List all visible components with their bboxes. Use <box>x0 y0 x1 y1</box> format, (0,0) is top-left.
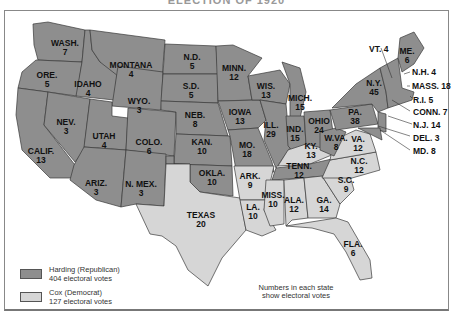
label-iowa: IOWA13 <box>229 108 252 126</box>
map-note: Numbers in each state show electoral vot… <box>246 284 346 300</box>
label-sc: S.C.9 <box>338 176 355 194</box>
label-tenn: TENN.12 <box>286 162 312 180</box>
label-va: VA.12 <box>351 135 365 153</box>
callout-nh: N.H. 4 <box>412 68 436 77</box>
republican-swatch <box>20 269 42 279</box>
label-idaho: IDAHO4 <box>74 80 101 98</box>
callout-md: MD. 8 <box>413 147 436 156</box>
label-me: ME.6 <box>399 47 414 65</box>
legend-democrat-votes: 127 electoral votes <box>49 297 112 306</box>
label-wyo: WYO.3 <box>128 97 151 115</box>
label-nc: N.C.12 <box>351 157 368 175</box>
label-wis: WIS.13 <box>257 82 275 100</box>
label-ga: GA.14 <box>316 196 331 214</box>
label-nev: NEV.3 <box>56 118 75 136</box>
callout-del: DEL. 3 <box>413 134 439 143</box>
label-ala: ALA.12 <box>284 196 304 214</box>
label-wash: WASH.7 <box>51 39 79 57</box>
democrat-swatch <box>20 292 42 302</box>
label-mo: MO.18 <box>239 141 255 159</box>
legend-republican: Harding (Republican) 404 electoral votes <box>20 265 120 283</box>
legend-republican-label: Harding (Republican) <box>49 265 120 274</box>
label-calif: CALIF.13 <box>28 147 54 165</box>
label-ky: KY.13 <box>304 142 317 160</box>
label-ore: ORE.5 <box>37 71 58 89</box>
label-nmex: N. MEX.3 <box>125 180 157 198</box>
legend-republican-votes: 404 electoral votes <box>49 274 120 283</box>
label-sd: S.D.5 <box>183 82 200 100</box>
label-kan: KAN.10 <box>192 138 213 156</box>
label-okla: OKLA.10 <box>199 169 225 187</box>
callout-nj: N.J. 14 <box>413 121 440 130</box>
label-ark: ARK.9 <box>240 172 261 190</box>
label-mich: MICH.15 <box>288 94 312 112</box>
label-neb: NEB.8 <box>185 111 205 129</box>
label-ny: N.Y.45 <box>366 79 382 97</box>
legend: Harding (Republican) 404 electoral votes… <box>20 265 120 311</box>
callout-conn: CONN. 7 <box>413 108 447 117</box>
label-wva: W.VA.8 <box>324 134 347 152</box>
label-fla: FLA.6 <box>344 240 363 258</box>
label-texas: TEXAS20 <box>187 211 215 229</box>
label-nd: N.D.5 <box>184 53 201 71</box>
label-ariz: ARIZ.3 <box>85 179 107 197</box>
callout-mass: MASS. 18 <box>412 82 451 91</box>
callout-ri: R.I. 5 <box>413 96 433 105</box>
label-utah: UTAH4 <box>93 132 116 150</box>
callout-vt: VT. 4 <box>369 45 388 54</box>
label-montana: MONTANA4 <box>110 61 153 79</box>
legend-democrat: Cox (Democrat) 127 electoral votes <box>20 288 120 306</box>
label-ill: ILL.29 <box>263 121 278 139</box>
label-miss: MISS.10 <box>261 191 284 209</box>
legend-democrat-label: Cox (Democrat) <box>49 288 112 297</box>
label-pa: PA.38 <box>348 108 362 126</box>
label-minn: MINN.12 <box>222 64 246 82</box>
label-la: LA.10 <box>246 203 260 221</box>
label-ind: IND.15 <box>287 125 304 143</box>
label-colo: COLO.6 <box>136 138 163 156</box>
note-line-2: show electoral votes <box>246 292 346 300</box>
